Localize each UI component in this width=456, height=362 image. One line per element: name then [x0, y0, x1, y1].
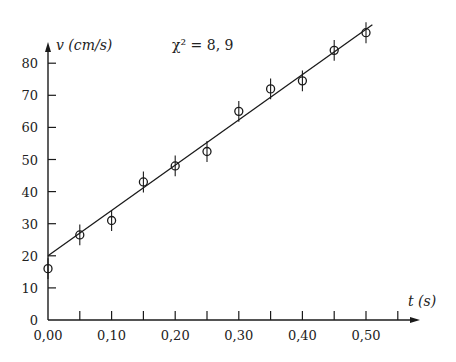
y-tick-label: 40 [21, 185, 38, 200]
y-tick-label: 0 [30, 313, 38, 328]
axes: 010203040506070800,000,100,200,300,400,5… [21, 42, 420, 343]
x-tick-label: 0,10 [97, 328, 126, 343]
fit-line [48, 25, 372, 256]
x-tick-label: 0,00 [34, 328, 63, 343]
y-tick-label: 70 [21, 88, 38, 103]
y-tick-label: 20 [21, 249, 38, 264]
x-axis-label: t (s) [408, 293, 436, 309]
chi-square-annotation: χ² = 8, 9 [172, 37, 233, 53]
y-tick-label: 10 [21, 281, 38, 296]
y-tick-label: 80 [21, 56, 38, 71]
x-tick-label: 0,30 [224, 328, 253, 343]
y-axis-label: v (cm/s) [56, 37, 112, 53]
x-tick-label: 0,20 [161, 328, 190, 343]
fit-line-path [48, 25, 372, 256]
labels: v (cm/s)t (s)χ² = 8, 9 [56, 37, 436, 309]
y-tick-label: 50 [21, 153, 38, 168]
y-tick-label: 60 [21, 120, 38, 135]
y-axis-arrow-icon [45, 42, 51, 52]
x-axis-arrow-icon [410, 317, 420, 323]
x-tick-label: 0,50 [352, 328, 381, 343]
y-tick-label: 30 [21, 217, 38, 232]
velocity-time-chart: 010203040506070800,000,100,200,300,400,5… [0, 0, 456, 362]
x-tick-label: 0,40 [288, 328, 317, 343]
